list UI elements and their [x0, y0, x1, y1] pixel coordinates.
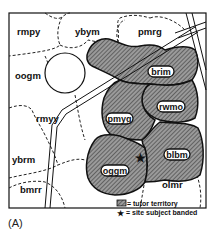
figure-caption: (A) — [8, 217, 23, 229]
label-rmpy: rmpy — [17, 26, 41, 37]
open-area-circle — [45, 53, 85, 93]
legend-hatch-swatch — [117, 200, 126, 206]
label-rwmo: rwmo — [159, 102, 184, 112]
label-bmrr: bmrr — [20, 184, 42, 195]
pill-rwmo: rwmo — [157, 101, 185, 112]
territory-map: rmpy ybym pmrg oogm rmyy ybrm bmrr olmr … — [0, 0, 216, 236]
label-oogm: oogm — [15, 70, 41, 81]
label-rmyy: rmyy — [36, 113, 59, 124]
legend-star-icon: ★ — [117, 209, 125, 218]
banded-site-star-icon: ★ — [135, 151, 146, 165]
label-blbm: blbm — [166, 150, 188, 160]
label-pmyg: pmyg — [107, 114, 131, 124]
legend-site-subject-banded: = site subject banded — [126, 209, 197, 217]
label-ybrm: ybrm — [12, 154, 35, 165]
label-pmrg: pmrg — [138, 26, 162, 37]
label-olmr: olmr — [162, 179, 183, 190]
legend-tutor-territory: = tutor territory — [127, 200, 178, 208]
label-brim: brim — [151, 67, 171, 77]
pill-blbm: blbm — [164, 149, 190, 160]
pill-pmyg: pmyg — [106, 113, 133, 124]
pill-brim: brim — [148, 66, 174, 77]
label-ybym: ybym — [75, 26, 100, 37]
pill-oggm: oggm — [101, 165, 129, 176]
label-oggm: oggm — [103, 166, 128, 176]
